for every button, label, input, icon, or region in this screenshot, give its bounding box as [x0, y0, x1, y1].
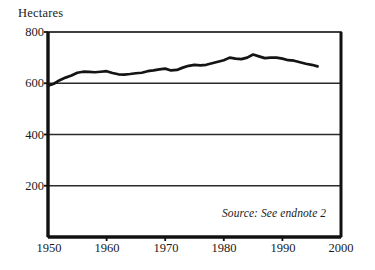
y-axis-title: Hectares	[18, 6, 63, 21]
data-line-series-0	[48, 55, 318, 86]
source-note: Source: See endnote 2	[222, 207, 326, 219]
chart-figure: Hectares 800 600 400 200 1950 1960 1970 …	[0, 0, 375, 270]
plot-area	[0, 0, 375, 270]
x-tick-label-1970: 1970	[136, 241, 196, 256]
x-tick-label-1950: 1950	[19, 241, 79, 256]
x-tick-label-1980: 1980	[194, 241, 254, 256]
y-tick-label-200: 200	[4, 179, 44, 194]
caption-sliver	[60, 264, 320, 270]
x-tick-label-1990: 1990	[253, 241, 313, 256]
y-tick-label-400: 400	[4, 128, 44, 143]
y-tick-label-600: 600	[4, 76, 44, 91]
gridlines	[48, 83, 341, 186]
x-tick-label-2000: 2000	[311, 241, 371, 256]
x-tick-label-1960: 1960	[77, 241, 137, 256]
y-tick-label-800: 800	[4, 25, 44, 40]
